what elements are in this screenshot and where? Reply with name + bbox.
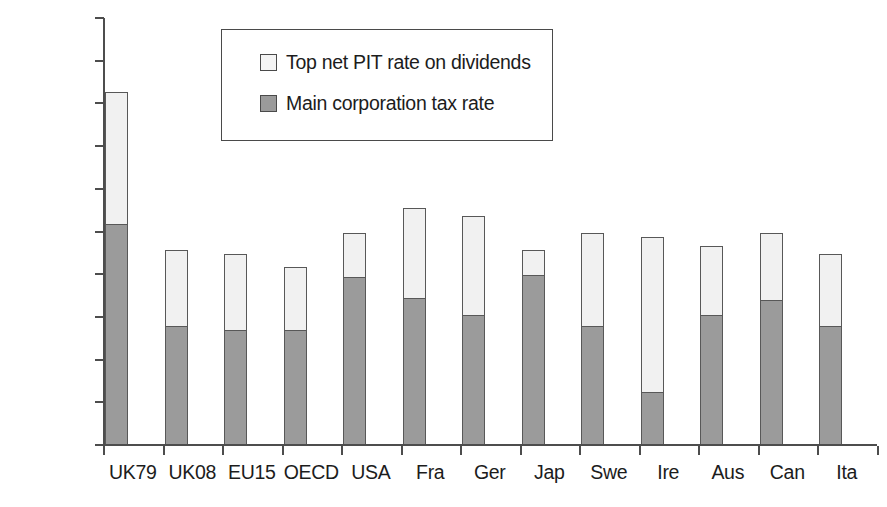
y-axis-tick-mark bbox=[95, 17, 104, 19]
bar-segment-net-pit-dividends bbox=[819, 254, 842, 327]
bar-segment-corporation-tax bbox=[403, 298, 426, 445]
bar-stack-jap bbox=[522, 249, 545, 445]
bar-segment-corporation-tax bbox=[343, 276, 366, 445]
bar-segment-net-pit-dividends bbox=[343, 233, 366, 278]
x-axis-tick-mark bbox=[341, 446, 343, 455]
bar-segment-corporation-tax bbox=[105, 223, 128, 445]
bar-stack-can bbox=[760, 232, 783, 446]
bar-segment-corporation-tax bbox=[819, 325, 842, 445]
x-axis-tick-mark bbox=[460, 446, 462, 455]
bar-stack-uk08 bbox=[165, 249, 188, 445]
y-axis-tick-mark bbox=[95, 60, 104, 62]
x-axis-tick-mark bbox=[758, 446, 760, 455]
x-axis-tick-mark bbox=[698, 446, 700, 455]
bar-segment-net-pit-dividends bbox=[641, 237, 664, 393]
x-axis-tick-mark bbox=[639, 446, 641, 455]
legend-label: Main corporation tax rate bbox=[286, 93, 494, 114]
bar-segment-net-pit-dividends bbox=[522, 250, 545, 276]
x-axis-tick-mark bbox=[877, 446, 879, 455]
stacked-bar-chart: 100%90%80%70%60%50%40%30%20%10%0% UK79UK… bbox=[0, 0, 887, 507]
legend-swatch-light-icon bbox=[260, 54, 277, 71]
bar-segment-net-pit-dividends bbox=[284, 267, 307, 331]
bar-stack-ita bbox=[819, 253, 842, 445]
x-axis-tick-mark bbox=[282, 446, 284, 455]
bar-segment-net-pit-dividends bbox=[224, 254, 247, 331]
bar-segment-net-pit-dividends bbox=[462, 216, 485, 316]
bar-stack-uk79 bbox=[105, 91, 128, 445]
y-axis-tick-mark bbox=[95, 316, 104, 318]
bar-segment-corporation-tax bbox=[462, 315, 485, 445]
legend-swatch-dark-icon bbox=[260, 95, 277, 112]
bar-stack-eu15 bbox=[224, 253, 247, 445]
bar-segment-net-pit-dividends bbox=[700, 246, 723, 316]
bar-segment-corporation-tax bbox=[522, 274, 545, 445]
bar-stack-swe bbox=[581, 232, 604, 446]
x-axis-tick-mark bbox=[163, 446, 165, 455]
y-axis-tick-mark bbox=[95, 145, 104, 147]
bar-segment-corporation-tax bbox=[581, 325, 604, 445]
bar-segment-net-pit-dividends bbox=[760, 233, 783, 301]
bar-segment-corporation-tax bbox=[284, 330, 307, 445]
bar-segment-net-pit-dividends bbox=[403, 208, 426, 300]
bar-segment-corporation-tax bbox=[760, 300, 783, 445]
legend-entry-top-net-pit-rate: Top net PIT rate on dividends bbox=[260, 52, 531, 73]
legend-label: Top net PIT rate on dividends bbox=[286, 52, 531, 73]
y-axis-tick-mark bbox=[95, 359, 104, 361]
bar-stack-ger bbox=[462, 214, 485, 445]
x-axis-tick-mark bbox=[520, 446, 522, 455]
bar-stack-aus bbox=[700, 244, 723, 445]
x-axis-tick-mark bbox=[817, 446, 819, 455]
x-axis-tick-mark bbox=[579, 446, 581, 455]
chart-legend: Top net PIT rate on dividends Main corpo… bbox=[221, 29, 553, 141]
bar-segment-corporation-tax bbox=[165, 325, 188, 445]
y-axis-tick-mark bbox=[95, 102, 104, 104]
bar-segment-corporation-tax bbox=[224, 330, 247, 445]
x-axis-line bbox=[103, 444, 877, 446]
y-axis-tick-mark bbox=[95, 273, 104, 275]
x-axis-tick-mark bbox=[103, 446, 105, 455]
y-axis-tick-mark bbox=[95, 401, 104, 403]
bar-stack-oecd bbox=[284, 266, 307, 445]
bar-segment-net-pit-dividends bbox=[581, 233, 604, 327]
legend-entry-main-corporation-tax-rate: Main corporation tax rate bbox=[260, 93, 494, 114]
bar-segment-corporation-tax bbox=[700, 315, 723, 445]
x-axis-tick-mark bbox=[222, 446, 224, 455]
bar-segment-net-pit-dividends bbox=[105, 92, 128, 224]
bar-stack-ire bbox=[641, 236, 664, 445]
bar-stack-usa bbox=[343, 232, 366, 446]
x-axis-tick-mark bbox=[401, 446, 403, 455]
y-axis-tick-mark bbox=[95, 188, 104, 190]
bar-segment-corporation-tax bbox=[641, 392, 664, 445]
x-axis-category-label: Ita bbox=[807, 461, 887, 483]
y-axis-tick-mark bbox=[95, 231, 104, 233]
bar-segment-net-pit-dividends bbox=[165, 250, 188, 327]
bar-stack-fra bbox=[403, 206, 426, 445]
